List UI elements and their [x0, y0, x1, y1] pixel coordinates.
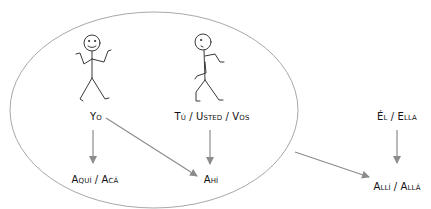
yo-stick-figure-icon [76, 35, 111, 101]
label-tu-usted-vos: Tú / Usted / Vos [175, 111, 250, 123]
label-el-ella: Él / Ella [377, 111, 417, 123]
arrow-yo-to-ahi [106, 118, 197, 176]
label-aqui-aca: Aquí / Acá [72, 174, 119, 186]
tu-stick-figure-icon [195, 34, 224, 101]
label-ahi: Ahí [204, 174, 218, 186]
label-yo: Yo [90, 111, 102, 123]
arrow-sphere-to-alli [295, 152, 369, 177]
label-alli-alla: Allí / Allá [373, 181, 420, 193]
sphere-ellipse [10, 12, 298, 208]
